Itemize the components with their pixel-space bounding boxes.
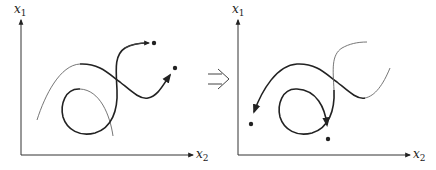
left-trajectory-b [62,43,148,134]
left-trajectory-b-faded [80,89,113,136]
left-panel [21,20,193,155]
right-trajectory-a [254,64,365,112]
left-x-axis-label: x2 [196,147,209,163]
right-y-axis-label: x1 [232,2,245,18]
left-trajectory-a [80,64,170,98]
right-trajectory-a-faded [365,68,390,98]
diagram-canvas [0,0,436,170]
right-endpoint-a-dot [249,122,253,126]
left-endpoint-a-dot [173,66,177,70]
right-x-axis-label: x2 [413,147,426,163]
right-panel [238,20,410,155]
right-trajectory-b [279,89,334,134]
right-endpoint-b-dot [326,137,330,141]
implies-arrow-icon [208,69,229,89]
left-trajectory-a-faded [37,64,80,120]
left-endpoint-b-dot [152,41,156,45]
left-y-axis-label: x1 [14,2,27,18]
